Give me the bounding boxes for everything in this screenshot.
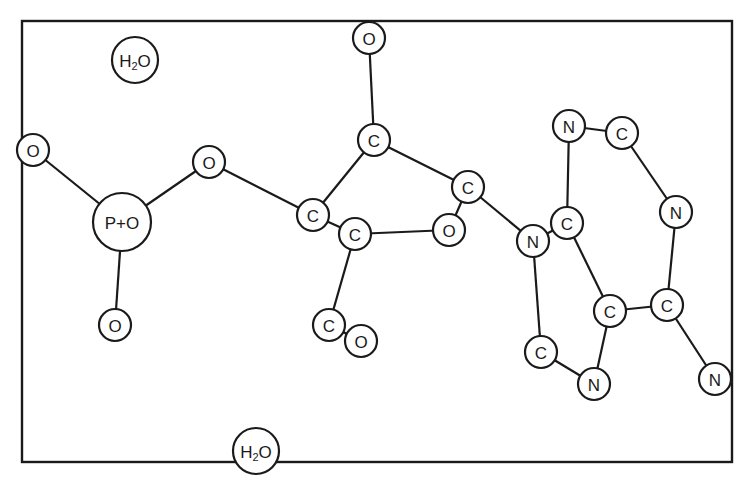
atom-o_phos_bottom: O (99, 309, 131, 341)
atom-h2o_bottom: H2O (233, 428, 279, 474)
atom-n9: N (517, 225, 549, 257)
atom-c4: C (551, 207, 583, 239)
atom-o_ester: O (193, 146, 225, 178)
atom-c_left: C (297, 199, 329, 231)
atom-label: O (108, 317, 121, 336)
atom-h2o_top: H2O (112, 37, 158, 83)
atom-n6: N (699, 363, 731, 395)
atom-o_top: O (353, 22, 385, 54)
atom-label: O (354, 333, 367, 352)
atom-o_low: O (345, 325, 377, 357)
molecule-diagram: H2OOP+OOOOCCCOCNCNCNCCNCNCOH2O (0, 0, 746, 487)
atom-c_low: C (313, 309, 345, 341)
atom-n3: N (553, 110, 585, 142)
atom-label: N (709, 371, 721, 390)
atom-label: N (670, 204, 682, 223)
atom-label: O (362, 30, 375, 49)
atom-c_sugar: C (339, 218, 371, 250)
atom-label: N (527, 233, 539, 252)
atom-label: C (535, 344, 547, 363)
atom-c5: C (594, 295, 626, 327)
atom-label: P+O (105, 214, 140, 233)
atom-label: C (323, 317, 335, 336)
atom-o_ring: O (433, 214, 465, 246)
atoms-layer: H2OOP+OOOOCCCOCNCNCNCCNCNCOH2O (17, 22, 731, 474)
atom-label: O (26, 142, 39, 161)
atom-p: P+O (93, 193, 151, 251)
atom-c6: C (651, 289, 683, 321)
atom-label: N (563, 118, 575, 137)
atom-label: C (561, 215, 573, 234)
atom-label: O (442, 222, 455, 241)
atom-c2: C (606, 117, 638, 149)
atom-label: O (202, 154, 215, 173)
atom-label: C (349, 226, 361, 245)
bond-o_ester-c_left (209, 162, 313, 215)
atom-c_top: C (358, 124, 390, 156)
atom-n7: N (578, 368, 610, 400)
atom-label: N (588, 376, 600, 395)
atom-label: C (604, 303, 616, 322)
atom-label: C (307, 207, 319, 226)
atom-label: C (616, 125, 628, 144)
atom-c_ring_right: C (452, 171, 484, 203)
atom-n1: N (660, 196, 692, 228)
atom-o_phos_left: O (17, 134, 49, 166)
atom-label: C (661, 297, 673, 316)
atom-c8: C (525, 336, 557, 368)
atom-label: C (462, 179, 474, 198)
atom-label: C (368, 132, 380, 151)
